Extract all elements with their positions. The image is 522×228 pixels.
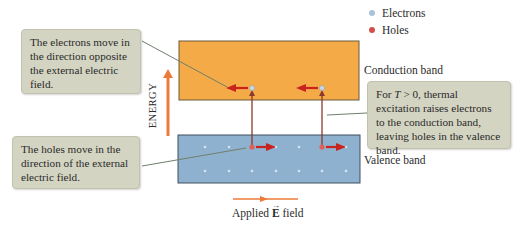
applied-field-label: Applied → E field bbox=[232, 207, 304, 219]
hole-2 bbox=[319, 144, 324, 149]
valence-band bbox=[178, 135, 360, 183]
field-arrow bbox=[233, 196, 298, 202]
electron-legend-icon bbox=[369, 10, 375, 16]
callout-holes: The holes move in the direction of the e… bbox=[12, 136, 140, 189]
legend-electrons: Electrons bbox=[369, 7, 425, 19]
energy-axis-label: ENERGY bbox=[147, 81, 158, 131]
legend-electrons-label: Electrons bbox=[382, 7, 425, 19]
hole-legend-icon bbox=[369, 27, 375, 33]
field-vector-arrow-icon: → bbox=[272, 201, 280, 210]
electron-2 bbox=[319, 85, 324, 90]
legend-holes: Holes bbox=[369, 24, 409, 36]
callout-thermal: For T > 0, thermal excitation raises ele… bbox=[367, 81, 511, 149]
legend-holes-label: Holes bbox=[382, 24, 409, 36]
callout-electrons: The electrons move in the direction oppo… bbox=[21, 29, 141, 94]
thermal-prefix: For bbox=[376, 88, 394, 100]
field-label-suffix: field bbox=[280, 207, 304, 219]
electron-1 bbox=[249, 85, 254, 90]
hole-1 bbox=[249, 144, 254, 149]
conduction-band-label: Conduction band bbox=[364, 64, 443, 76]
field-label-prefix: Applied bbox=[232, 207, 272, 219]
energy-arrow bbox=[163, 69, 173, 136]
conduction-band bbox=[179, 41, 359, 100]
